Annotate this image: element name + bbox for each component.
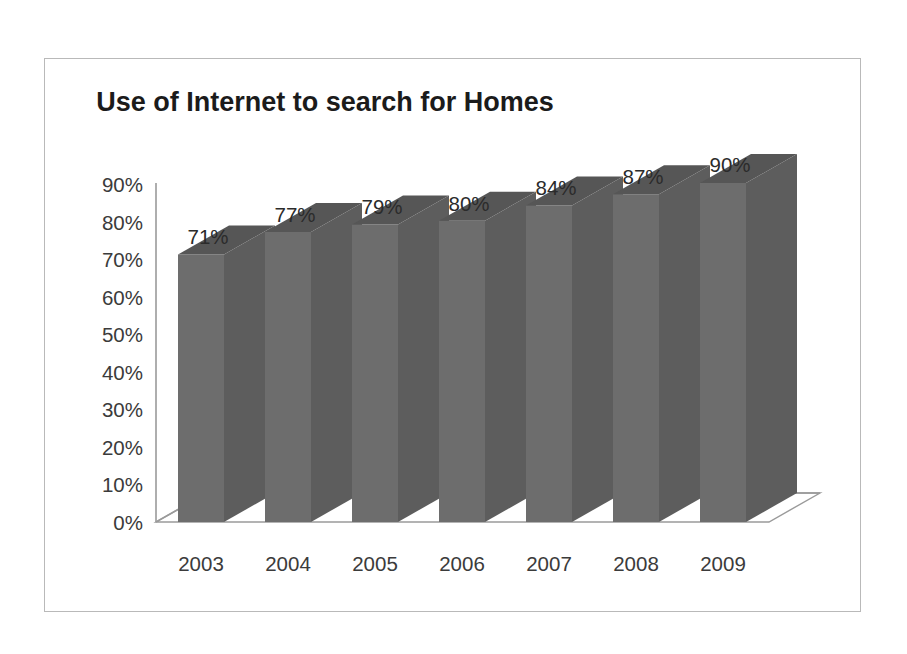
y-tick-label: 30% (102, 398, 143, 421)
y-axis-tick-labels: 0% 10% 20% 30% 40% 50% 60% 70% 80% 90% (102, 173, 143, 534)
bar-value-label: 90% (709, 153, 750, 176)
y-tick-label: 10% (102, 473, 143, 496)
x-axis-category-labels: 2003 2004 2005 2006 2007 2008 2009 (178, 552, 746, 575)
bar-chart: Use of Internet to search for Homes 0% 1… (45, 59, 860, 611)
chart-frame: Use of Internet to search for Homes 0% 1… (44, 58, 861, 612)
bar-front-face (526, 206, 572, 522)
y-tick-label: 70% (102, 248, 143, 271)
bar-front-face (352, 224, 398, 522)
y-tick-label: 90% (102, 173, 143, 196)
y-tick-label: 50% (102, 323, 143, 346)
bar-value-label: 79% (361, 195, 402, 218)
y-tick-label: 80% (102, 211, 143, 234)
y-tick-label: 0% (113, 511, 143, 534)
bar-value-label: 77% (274, 203, 315, 226)
x-category-label: 2008 (613, 552, 659, 575)
x-category-label: 2003 (178, 552, 224, 575)
bar-value-label: 84% (535, 176, 576, 199)
x-category-label: 2007 (526, 552, 572, 575)
bar-value-label: 80% (448, 192, 489, 215)
bar-front-face (439, 221, 485, 522)
bar-side-face (746, 154, 797, 522)
bar-value-label: 87% (622, 165, 663, 188)
x-category-label: 2005 (352, 552, 398, 575)
bar-front-face (265, 232, 311, 522)
x-category-label: 2009 (700, 552, 746, 575)
x-category-label: 2004 (265, 552, 311, 575)
bar-value-label: 71% (187, 225, 228, 248)
y-tick-label: 40% (102, 361, 143, 384)
x-category-label: 2006 (439, 552, 485, 575)
y-tick-label: 20% (102, 436, 143, 459)
chart-title: Use of Internet to search for Homes (96, 87, 554, 117)
bar-front-face (178, 255, 224, 522)
y-tick-label: 60% (102, 286, 143, 309)
bar-front-face (700, 183, 746, 522)
bar-front-face (613, 194, 659, 522)
